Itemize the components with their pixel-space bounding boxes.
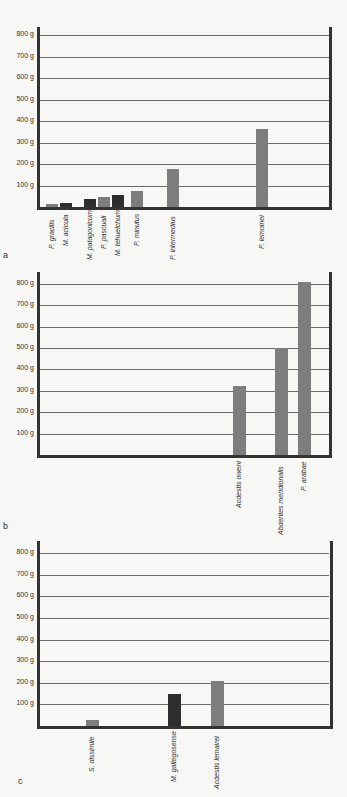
bar	[168, 694, 181, 726]
gridline	[40, 683, 329, 684]
y-tick-label: 100 g	[0, 699, 34, 706]
gridline	[40, 640, 329, 641]
plot-area-c	[37, 541, 333, 729]
gridline	[40, 661, 329, 662]
y-tick-label: 500 g	[0, 613, 34, 620]
bar	[211, 681, 224, 726]
y-tick-label: 300 g	[0, 656, 34, 663]
y-tick-label: 800 g	[0, 548, 34, 555]
y-tick-label: 700 g	[0, 570, 34, 577]
gridline	[40, 553, 329, 554]
x-category-label: M. gallegosense	[170, 731, 177, 782]
x-category-label: S. dissimile	[88, 736, 95, 771]
gridline	[40, 596, 329, 597]
x-category-label: Acdestis lemairei	[213, 736, 220, 789]
bar	[86, 720, 99, 726]
gridline	[40, 704, 329, 705]
gridline	[40, 618, 329, 619]
y-tick-label: 200 g	[0, 678, 34, 685]
gridline	[40, 575, 329, 576]
y-tick-label: 400 g	[0, 635, 34, 642]
chart-panel-c: c 100 g200 g300 g400 g500 g600 g700 g800…	[0, 0, 347, 797]
y-tick-label: 600 g	[0, 591, 34, 598]
panel-label-c: c	[18, 776, 23, 786]
